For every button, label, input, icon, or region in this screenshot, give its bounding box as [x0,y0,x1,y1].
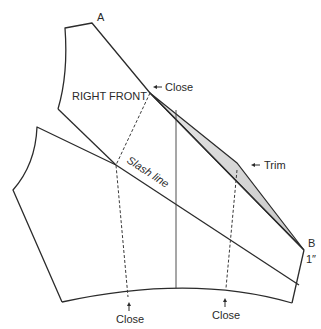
hem-curve [62,288,292,303]
lower-piece-outline [13,127,116,302]
trim-label: Trim [264,159,286,171]
dart-dashed-right [226,170,237,288]
pattern-diagram: A RIGHT FRONT Close Slash line Trim B 1″… [0,0,321,329]
front-edge-line [150,93,304,250]
arrow-up-icon-head [223,298,227,302]
measure-label: 1″ [306,253,316,265]
arrow-left-icon-head [251,163,255,167]
dart-dashed-left [116,93,150,297]
upper-piece-lower-edge [58,109,116,165]
arrow-left-icon-head [153,85,157,89]
right-edge [292,250,304,303]
piece-name-label: RIGHT FRONT [72,90,147,102]
close-top-label: Close [165,81,193,93]
vertex-b-label: B [308,237,315,249]
close-bottom-right-callout: Close [212,298,240,321]
vertex-a-label: A [97,11,105,23]
slash-line [116,165,299,285]
close-bottom-left-callout: Close [116,302,144,325]
trim-callout: Trim [251,159,286,171]
close-bottom-right-label: Close [212,309,240,321]
arrow-up-icon-head [127,302,131,306]
close-top-callout: Close [153,81,193,93]
close-bottom-left-label: Close [116,313,144,325]
slash-line-label: Slash line [125,154,172,190]
